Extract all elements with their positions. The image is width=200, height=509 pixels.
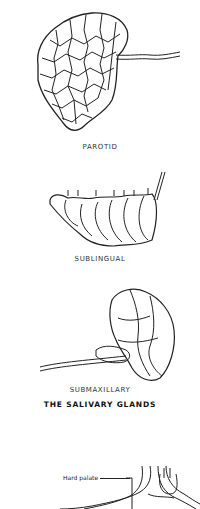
palate-cross-section-illustration (0, 0, 200, 509)
hard-palate-leader-line (100, 478, 130, 479)
palate-cross-section (60, 466, 200, 509)
hard-palate-label: Hard palate (63, 474, 98, 481)
